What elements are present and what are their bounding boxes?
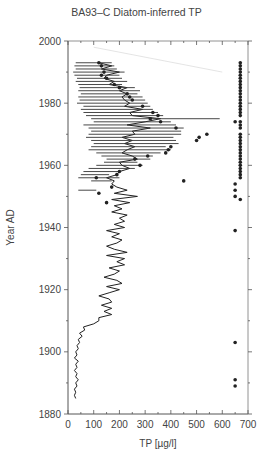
y-tick-label: 1900 [39, 346, 62, 357]
data-point [197, 136, 201, 140]
data-point [238, 64, 242, 68]
data-point [115, 173, 119, 177]
data-point [238, 61, 242, 65]
data-point [110, 185, 114, 189]
data-point [128, 95, 132, 99]
data-point [233, 384, 237, 388]
x-tick-label: 0 [65, 419, 71, 430]
data-point [102, 70, 106, 74]
data-point [238, 145, 242, 149]
x-tick-label: 100 [85, 419, 102, 430]
data-point [238, 98, 242, 102]
data-point [151, 111, 155, 115]
data-point [159, 120, 163, 124]
data-point [133, 157, 137, 161]
data-point [195, 139, 199, 143]
data-point [146, 154, 150, 158]
data-point [100, 64, 104, 68]
data-point [238, 170, 242, 174]
data-point [182, 179, 186, 183]
data-point [238, 92, 242, 96]
y-tick-label: 1880 [39, 409, 62, 420]
y-tick-label: 1940 [39, 222, 62, 233]
data-point [166, 148, 170, 152]
data-point [238, 108, 242, 112]
data-point [118, 86, 122, 90]
data-point [238, 111, 242, 115]
data-point [238, 114, 242, 118]
y-tick-label: 2000 [39, 36, 62, 47]
data-point [238, 104, 242, 108]
y-axis-label: Year AD [5, 209, 16, 245]
data-point [238, 157, 242, 161]
data-point [97, 192, 101, 196]
data-point [169, 145, 173, 149]
data-point [238, 198, 242, 202]
data-point [238, 173, 242, 177]
data-point [138, 164, 142, 168]
data-point [94, 176, 98, 180]
y-tick-label: 1980 [39, 98, 62, 109]
data-point [233, 341, 237, 345]
data-point [238, 89, 242, 93]
data-point [233, 195, 237, 199]
y-tick-label: 1920 [39, 284, 62, 295]
y-tick-label: 1960 [39, 160, 62, 171]
data-point [100, 73, 104, 77]
data-point [238, 139, 242, 143]
data-point [238, 148, 242, 152]
data-point [233, 120, 237, 124]
data-point [238, 86, 242, 90]
data-point [156, 114, 160, 118]
data-point [164, 151, 168, 155]
data-point [238, 151, 242, 155]
tp-line [74, 63, 160, 399]
data-point [238, 101, 242, 105]
x-tick-label: 400 [163, 419, 180, 430]
data-point [233, 188, 237, 192]
x-tick-label: 200 [111, 419, 128, 430]
data-point [238, 126, 242, 130]
data-point [130, 98, 134, 102]
data-point [238, 70, 242, 74]
data-point [238, 167, 242, 171]
data-point [238, 77, 242, 81]
data-point [233, 182, 237, 186]
x-tick-label: 500 [188, 419, 205, 430]
data-point [125, 92, 129, 96]
data-point [205, 132, 209, 136]
data-point [238, 120, 242, 124]
data-point [238, 142, 242, 146]
data-point [238, 154, 242, 158]
x-tick-label: 700 [240, 419, 257, 430]
data-point [238, 160, 242, 164]
chart: 0100200300400500600700188019001920194019… [0, 0, 273, 472]
data-point [238, 164, 242, 168]
x-axis-label: TP [µg/l] [139, 438, 176, 449]
data-point [112, 83, 116, 87]
data-point [238, 83, 242, 87]
data-point [105, 77, 109, 81]
data-point [105, 201, 109, 205]
x-tick-label: 300 [137, 419, 154, 430]
data-point [118, 170, 122, 174]
data-point [238, 176, 242, 180]
data-point [174, 126, 178, 130]
data-point [238, 95, 242, 99]
trend-line [94, 47, 223, 72]
x-tick-label: 600 [214, 419, 231, 430]
data-point [238, 80, 242, 84]
data-point [233, 378, 237, 382]
data-point [238, 136, 242, 140]
data-point [148, 117, 152, 121]
data-point [238, 123, 242, 127]
data-point [238, 132, 242, 136]
data-point [233, 229, 237, 233]
data-point [238, 67, 242, 71]
data-point [238, 73, 242, 77]
data-point [97, 61, 101, 65]
data-point [141, 104, 145, 108]
